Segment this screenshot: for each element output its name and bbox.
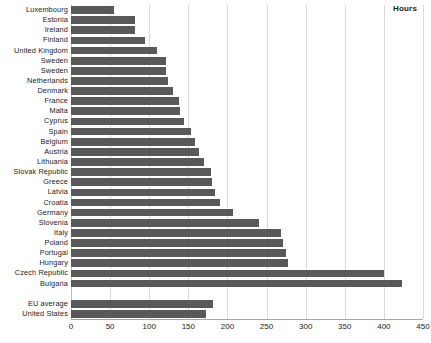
bar (71, 310, 206, 318)
bar (71, 128, 191, 136)
bar (71, 259, 288, 267)
category-label: Sweden (41, 57, 68, 64)
category-label: Finland (43, 37, 68, 44)
bar (71, 26, 135, 34)
bar-row: Austria (0, 147, 431, 157)
category-label: Poland (44, 239, 68, 246)
category-label: France (44, 98, 68, 105)
bar (71, 77, 168, 85)
category-label: EU average (28, 300, 68, 307)
bar-row: Latvia (0, 187, 431, 197)
x-tick-label: 300 (299, 322, 312, 331)
bar (71, 138, 195, 146)
category-label: Czech Republic (15, 270, 68, 277)
category-label: Sweden (41, 67, 68, 74)
x-axis-line (71, 319, 423, 320)
bar (71, 229, 281, 237)
category-label: Latvia (48, 189, 68, 196)
bar-row: Hungary (0, 258, 431, 268)
category-label: Belgium (41, 138, 68, 145)
category-label: Luxembourg (26, 6, 68, 13)
bar (71, 37, 145, 45)
x-tick-label: 50 (106, 322, 115, 331)
category-label: Hungary (39, 260, 68, 267)
bar (71, 300, 213, 308)
bar (71, 239, 283, 247)
category-label: Austria (44, 148, 68, 155)
category-label: Greece (43, 179, 68, 186)
category-label: Ireland (45, 27, 68, 34)
bar (71, 209, 233, 217)
bar (71, 47, 157, 55)
bar-row: Greece (0, 177, 431, 187)
bar-rows: LuxembourgEstoniaIrelandFinlandUnited Ki… (0, 5, 431, 319)
bar-row: United States (0, 309, 431, 319)
bar-row: Portugal (0, 248, 431, 258)
category-label: Portugal (40, 250, 68, 257)
bar-row: Ireland (0, 25, 431, 35)
category-label: Slovak Republic (13, 168, 68, 175)
bar (71, 168, 211, 176)
bar-row: Denmark (0, 86, 431, 96)
spacer-row (0, 289, 431, 299)
category-label: Croatia (43, 199, 68, 206)
bar (71, 178, 212, 186)
bar (71, 87, 173, 95)
bar (71, 57, 166, 65)
category-label: Cyprus (44, 118, 68, 125)
bar-row: United Kingdom (0, 46, 431, 56)
x-tick-label: 150 (182, 322, 195, 331)
bar-row: Italy (0, 228, 431, 238)
category-label: Slovenia (39, 219, 68, 226)
category-label: Spain (49, 128, 68, 135)
x-axis-tick-labels: 050100150200250300350400450 (0, 322, 431, 340)
legend-label: Hours (393, 4, 417, 13)
category-label: Estonia (43, 17, 68, 24)
category-label: United States (22, 310, 68, 317)
x-tick-label: 0 (69, 322, 73, 331)
bar-row: Poland (0, 238, 431, 248)
bar (71, 219, 259, 227)
category-label: Malta (49, 108, 68, 115)
x-tick-label: 450 (416, 322, 429, 331)
bar-row: Croatia (0, 197, 431, 207)
bar-row: Germany (0, 208, 431, 218)
bar-row: Sweden (0, 66, 431, 76)
bar (71, 16, 135, 24)
bar-row: EU average (0, 299, 431, 309)
category-label: Italy (54, 229, 68, 236)
bar-row: Bulgaria (0, 278, 431, 288)
bar (71, 6, 114, 14)
x-tick-label: 400 (377, 322, 390, 331)
bar (71, 158, 204, 166)
bar-row: Sweden (0, 56, 431, 66)
bar-row: Slovenia (0, 218, 431, 228)
bar-row: Slovak Republic (0, 167, 431, 177)
bar-row: Finland (0, 35, 431, 45)
x-tick-label: 250 (260, 322, 273, 331)
bar-row: France (0, 96, 431, 106)
bar-row: Luxembourg (0, 5, 431, 15)
bar (71, 270, 384, 278)
category-label: Bulgaria (40, 280, 68, 287)
x-tick-label: 100 (143, 322, 156, 331)
bar (71, 67, 166, 75)
bar (71, 148, 199, 156)
bar-chart: LuxembourgEstoniaIrelandFinlandUnited Ki… (0, 0, 431, 343)
x-tick-label: 200 (221, 322, 234, 331)
bar (71, 97, 179, 105)
legend: Hours (393, 4, 417, 13)
bar-row: Spain (0, 127, 431, 137)
x-tick-label: 350 (338, 322, 351, 331)
bar (71, 199, 220, 207)
bar-row: Estonia (0, 15, 431, 25)
bar (71, 280, 402, 288)
bar (71, 189, 215, 197)
bar (71, 107, 180, 115)
bar (71, 118, 184, 126)
category-label: Germany (37, 209, 68, 216)
bar-row: Netherlands (0, 76, 431, 86)
bar-row: Lithuania (0, 157, 431, 167)
category-label: Lithuania (37, 158, 68, 165)
bar-row: Malta (0, 106, 431, 116)
